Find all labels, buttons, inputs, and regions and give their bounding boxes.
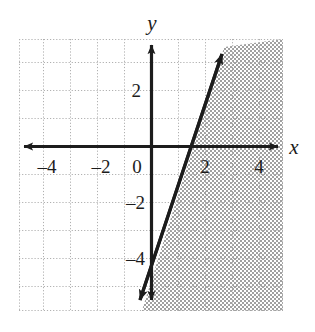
graph-figure: –4 –2 0 2 4 2 –2 –4 y x: [0, 0, 315, 332]
x-tick-label-2: 2: [200, 156, 210, 177]
y-tick-label-2: 2: [132, 80, 142, 101]
x-axis-label: x: [288, 135, 299, 159]
x-tick-label--2: –2: [91, 156, 111, 177]
x-tick-label-0: 0: [132, 156, 142, 177]
coordinate-plane-svg: –4 –2 0 2 4 2 –2 –4 y x: [0, 0, 315, 332]
y-tick-label--2: –2: [125, 192, 145, 213]
x-tick-label--4: –4: [37, 156, 58, 177]
y-tick-label--4: –4: [125, 248, 146, 269]
x-tick-label-4: 4: [254, 156, 264, 177]
y-axis-label: y: [145, 11, 157, 35]
